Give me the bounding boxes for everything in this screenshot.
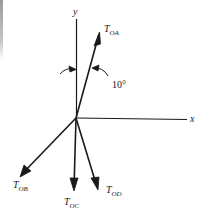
vector-diagram: y x TOA 10° TOB TOC T bbox=[0, 0, 206, 221]
vector-toc: TOC bbox=[64, 118, 80, 210]
svg-text:TOD: TOD bbox=[106, 184, 122, 198]
y-axis-label: y bbox=[72, 6, 78, 17]
svg-text:TOA: TOA bbox=[104, 23, 120, 37]
x-axis-label: x bbox=[189, 113, 195, 124]
vector-tob: TOB bbox=[13, 118, 76, 193]
angle-indicator: 10° bbox=[60, 65, 126, 90]
angle-arrow-left-icon bbox=[69, 66, 76, 72]
toc-label-sub: OC bbox=[70, 202, 80, 210]
svg-text:TOB: TOB bbox=[13, 179, 29, 193]
toa-label-sub: OA bbox=[110, 29, 120, 37]
vector-tod: TOD bbox=[76, 118, 122, 198]
angle-label: 10° bbox=[112, 79, 126, 90]
arrowhead-tod-icon bbox=[91, 177, 99, 190]
svg-text:TOC: TOC bbox=[64, 196, 80, 210]
arrowhead-toa-icon bbox=[94, 32, 101, 46]
x-axis bbox=[76, 118, 187, 120]
tod-label-sub: OD bbox=[112, 190, 122, 198]
angle-arrow-right-icon bbox=[92, 65, 99, 71]
arrowhead-toc-icon bbox=[70, 178, 78, 191]
tob-label-sub: OB bbox=[19, 185, 29, 193]
